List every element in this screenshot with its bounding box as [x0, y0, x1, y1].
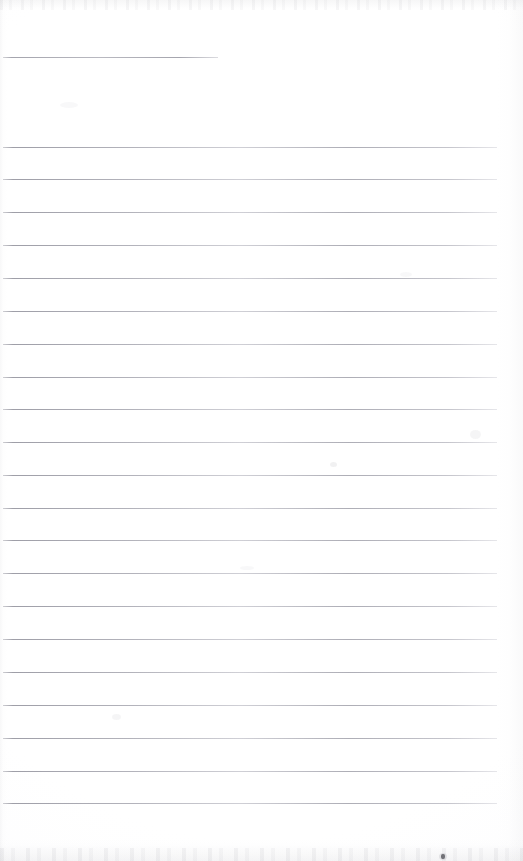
ink-speck-mark [441, 854, 445, 859]
scan-smudge-1 [330, 462, 337, 467]
rule-line-16 [3, 606, 497, 607]
rule-line-18 [3, 672, 497, 673]
scan-edge-shadow-right [497, 0, 523, 861]
rule-line-4 [3, 212, 497, 213]
rule-line-21 [3, 771, 497, 772]
rule-line-1 [3, 57, 218, 58]
scanned-page [0, 0, 523, 861]
rule-line-9 [3, 377, 497, 378]
scan-smudge-5 [60, 102, 78, 108]
rule-line-2 [3, 147, 497, 148]
scan-smudge-6 [400, 272, 412, 277]
rule-line-7 [3, 311, 497, 312]
rule-line-3 [3, 179, 497, 180]
rule-line-15 [3, 573, 497, 574]
rule-line-17 [3, 639, 497, 640]
rule-line-22 [3, 803, 497, 804]
rule-line-13 [3, 508, 497, 509]
scan-edge-shadow-left [0, 0, 7, 861]
rule-line-12 [3, 475, 497, 476]
rule-line-14 [3, 540, 497, 541]
rule-line-8 [3, 344, 497, 345]
scan-smudge-4 [240, 566, 254, 570]
rule-line-6 [3, 278, 497, 279]
rule-line-5 [3, 245, 497, 246]
rule-line-19 [3, 705, 497, 706]
scan-noise-band-top [0, 0, 523, 10]
rule-line-20 [3, 738, 497, 739]
rule-line-11 [3, 442, 497, 443]
scan-smudge-2 [470, 430, 481, 439]
paper-surface [0, 0, 523, 861]
rule-line-10 [3, 409, 497, 410]
scan-smudge-3 [112, 714, 121, 720]
